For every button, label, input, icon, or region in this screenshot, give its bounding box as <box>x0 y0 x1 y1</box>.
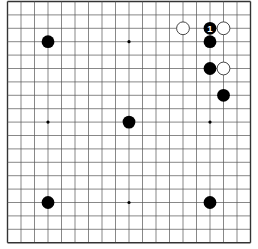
white-stone <box>217 62 230 75</box>
hoshi-point <box>208 121 211 124</box>
move-number-label: 1 <box>207 23 213 34</box>
black-stone <box>42 35 55 48</box>
black-stone <box>123 116 136 129</box>
hoshi-point <box>127 40 130 43</box>
hoshi-point <box>46 121 49 124</box>
black-stone <box>204 196 217 209</box>
hoshi-point <box>127 201 130 204</box>
black-stone <box>42 196 55 209</box>
stones: 1 <box>42 22 230 209</box>
black-stone: 1 <box>204 22 217 35</box>
white-stone <box>177 22 190 35</box>
black-stone <box>204 62 217 75</box>
black-stone <box>217 89 230 102</box>
go-board[interactable]: 1 <box>0 0 258 249</box>
white-stone <box>217 22 230 35</box>
black-stone <box>204 35 217 48</box>
